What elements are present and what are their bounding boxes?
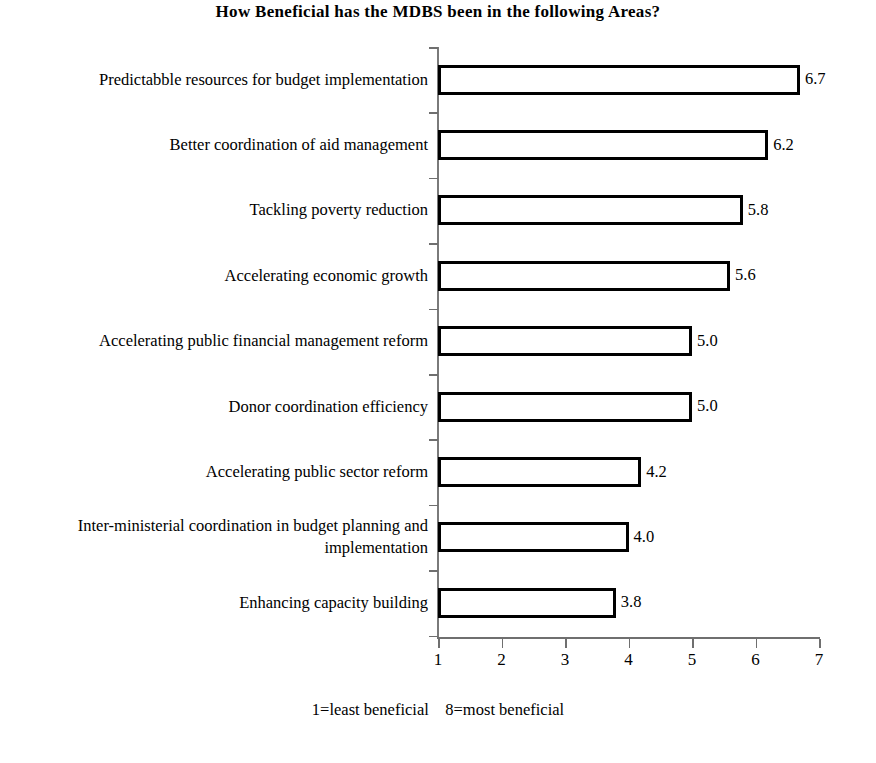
x-axis-tick	[629, 639, 631, 648]
bar	[438, 326, 692, 356]
category-label: Tackling poverty reduction	[8, 199, 428, 221]
x-axis-tick-label: 5	[677, 650, 707, 670]
bar	[438, 130, 768, 160]
x-axis-tick	[565, 639, 567, 648]
y-axis-tick	[429, 570, 438, 572]
category-label: Donor coordination efficiency	[8, 396, 428, 418]
x-axis-tick-label: 2	[487, 650, 517, 670]
y-axis-tick	[429, 178, 438, 180]
bar-row: Tackling poverty reduction5.8	[0, 178, 876, 243]
bar-value-label: 4.2	[646, 464, 667, 481]
bar-row: Predictabble resources for budget implem…	[0, 47, 876, 112]
bar-value-label: 3.8	[621, 594, 642, 611]
bar-row: Enhancing capacity building3.8	[0, 570, 876, 635]
x-axis-tick	[756, 639, 758, 648]
x-axis-tick-label: 6	[741, 650, 771, 670]
bar-row: Inter-ministerial coordination in budget…	[0, 505, 876, 570]
bar-row: Donor coordination efficiency5.0	[0, 374, 876, 439]
y-axis-tick	[429, 112, 438, 114]
bar-row: Accelerating economic growth5.6	[0, 243, 876, 308]
plot-area: Predictabble resources for budget implem…	[0, 0, 876, 763]
bar	[438, 522, 629, 552]
y-axis-tick	[429, 636, 438, 638]
x-axis-tick	[502, 639, 504, 648]
bar	[438, 65, 800, 95]
bar	[438, 588, 616, 618]
bar-value-label: 6.7	[805, 71, 826, 88]
category-label: Inter-ministerial coordination in budget…	[8, 515, 428, 559]
category-label: Predictabble resources for budget implem…	[8, 69, 428, 91]
y-axis-tick	[429, 374, 438, 376]
x-axis-tick-label: 1	[423, 650, 453, 670]
bar-value-label: 5.8	[748, 202, 769, 219]
bar-container: 5.8	[438, 195, 768, 225]
category-label: Accelerating public financial management…	[8, 330, 428, 352]
bar-container: 5.0	[438, 326, 718, 356]
category-label: Better coordination of aid management	[8, 134, 428, 156]
y-axis-tick	[429, 439, 438, 441]
bar-container: 4.0	[438, 522, 654, 552]
y-axis-tick	[429, 47, 438, 49]
x-axis-tick-label: 7	[804, 650, 834, 670]
bar	[438, 261, 730, 291]
bar-container: 5.6	[438, 261, 756, 291]
bar	[438, 392, 692, 422]
y-axis-tick	[429, 243, 438, 245]
bar-row: Better coordination of aid management6.2	[0, 112, 876, 177]
chart-footnote: 1=least beneficial 8=most beneficial	[0, 700, 876, 720]
bar-row: Accelerating public sector reform4.2	[0, 439, 876, 504]
bar-value-label: 5.6	[735, 267, 756, 284]
category-label: Enhancing capacity building	[8, 592, 428, 614]
bar	[438, 457, 641, 487]
x-axis-tick	[692, 639, 694, 648]
bar-container: 5.0	[438, 392, 718, 422]
x-axis-tick-label: 3	[550, 650, 580, 670]
bar-container: 6.7	[438, 65, 826, 95]
bar-container: 6.2	[438, 130, 794, 160]
bar-row: Accelerating public financial management…	[0, 309, 876, 374]
x-axis-tick-label: 4	[614, 650, 644, 670]
category-label: Accelerating economic growth	[8, 265, 428, 287]
x-axis-tick	[819, 639, 821, 648]
bar-container: 4.2	[438, 457, 667, 487]
x-axis-tick	[438, 639, 440, 648]
y-axis-tick	[429, 505, 438, 507]
bar-value-label: 5.0	[697, 333, 718, 350]
bar	[438, 195, 743, 225]
y-axis-tick	[429, 309, 438, 311]
bar-container: 3.8	[438, 588, 641, 618]
bar-value-label: 5.0	[697, 398, 718, 415]
bar-value-label: 4.0	[634, 529, 655, 546]
category-label: Accelerating public sector reform	[8, 461, 428, 483]
bar-value-label: 6.2	[773, 137, 794, 154]
